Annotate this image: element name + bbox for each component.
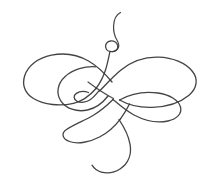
calligraphic-flourish-drawing: Calligraphic Flourish Ornament [0, 0, 216, 192]
artwork-canvas: Calligraphic Flourish Ornament [0, 0, 216, 192]
